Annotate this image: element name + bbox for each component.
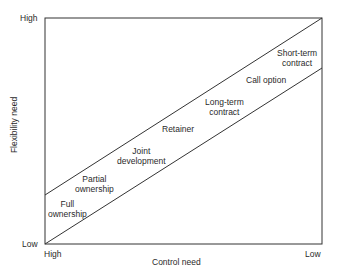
x-axis-low-label: Low <box>305 249 321 259</box>
y-axis-high-label: High <box>20 13 37 23</box>
region-full-ownership: Full ownership <box>48 199 87 219</box>
y-axis-title: Flexibility need <box>9 97 19 153</box>
region-label-line1: Call option <box>246 75 286 85</box>
region-retainer: Retainer <box>162 124 194 134</box>
region-label-line2: development <box>117 156 166 166</box>
region-short-term-contract: Short-term contract <box>277 48 317 68</box>
upper-boundary-line <box>45 18 322 195</box>
region-label-line1: Long-term <box>205 97 244 107</box>
region-label-line1: Partial <box>75 174 114 184</box>
region-label-line2: ownership <box>75 184 114 194</box>
region-joint-development: Joint development <box>117 146 166 166</box>
region-label-line1: Short-term <box>277 48 317 58</box>
region-label-line1: Joint <box>117 146 166 156</box>
region-long-term-contract: Long-term contract <box>205 97 244 117</box>
x-axis-title: Control need <box>152 257 201 267</box>
x-axis-high-label: High <box>44 249 61 259</box>
region-label-line1: Retainer <box>162 124 194 134</box>
region-label-line2: contract <box>277 58 317 68</box>
region-partial-ownership: Partial ownership <box>75 174 114 194</box>
region-label-line1: Full <box>48 199 87 209</box>
diagram-frame <box>0 0 339 277</box>
region-label-line2: ownership <box>48 209 87 219</box>
region-call-option: Call option <box>246 75 286 85</box>
y-axis-low-label: Low <box>22 239 38 249</box>
region-label-line2: contract <box>205 107 244 117</box>
